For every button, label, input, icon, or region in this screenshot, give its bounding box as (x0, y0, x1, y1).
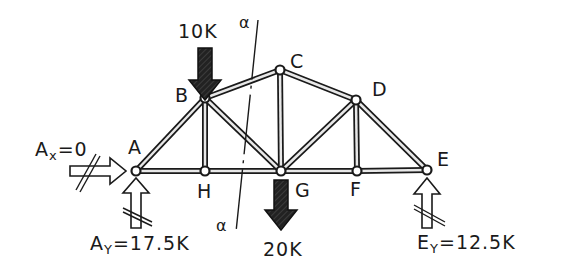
joint-h-icon (201, 167, 210, 176)
reaction-ay-arrow-icon (123, 178, 152, 228)
node-label-g: G (295, 181, 311, 200)
reaction-ey-sub: Y (430, 241, 439, 256)
node-label-b: B (175, 86, 189, 105)
reaction-ay-sub: Y (104, 242, 113, 257)
reaction-ay-value: =17.5K (113, 232, 190, 254)
node-label-e: E (437, 150, 450, 169)
reaction-ey-arrow-icon (414, 178, 445, 228)
load-arrow-20k-icon (265, 180, 297, 230)
reaction-ey-main: E (417, 231, 430, 253)
member-de (356, 100, 427, 170)
joint-e-icon (423, 166, 432, 175)
joint-g-icon (277, 167, 286, 176)
reaction-label-ay: AY=17.5K (90, 234, 190, 253)
joint-c-icon (276, 66, 285, 75)
reaction-ax-sub: x (49, 148, 58, 163)
joint-d-icon (352, 96, 361, 105)
node-label-a: A (128, 138, 142, 157)
truss-diagram: A B C D E F G H 10K 20K α α Ax=0 AY=17.5… (0, 0, 565, 273)
reaction-ax-value: =0 (58, 138, 88, 160)
node-label-d: D (372, 80, 388, 99)
member-df (356, 100, 357, 171)
reaction-ey-value: =12.5K (439, 231, 516, 253)
reaction-ay-main: A (90, 232, 104, 254)
reaction-label-ax: Ax=0 (35, 140, 88, 159)
section-label-bottom: α (216, 218, 228, 234)
section-label-top: α (239, 15, 251, 31)
member-ab (136, 98, 205, 171)
load-label-20k: 20K (263, 240, 303, 259)
reaction-label-ey: EY=12.5K (417, 233, 516, 252)
node-label-h: H (197, 182, 212, 201)
load-label-10k: 10K (178, 22, 218, 41)
reaction-ax-main: A (35, 138, 49, 160)
node-label-f: F (350, 180, 362, 199)
member-bg (205, 98, 281, 171)
member-fe (357, 170, 427, 171)
joint-f-icon (353, 167, 362, 176)
node-label-c: C (290, 52, 304, 71)
section-cut-line (236, 20, 258, 232)
joint-a-icon (132, 167, 141, 176)
member-cd (280, 70, 356, 100)
member-cg (280, 70, 281, 171)
member-gd (281, 100, 356, 171)
